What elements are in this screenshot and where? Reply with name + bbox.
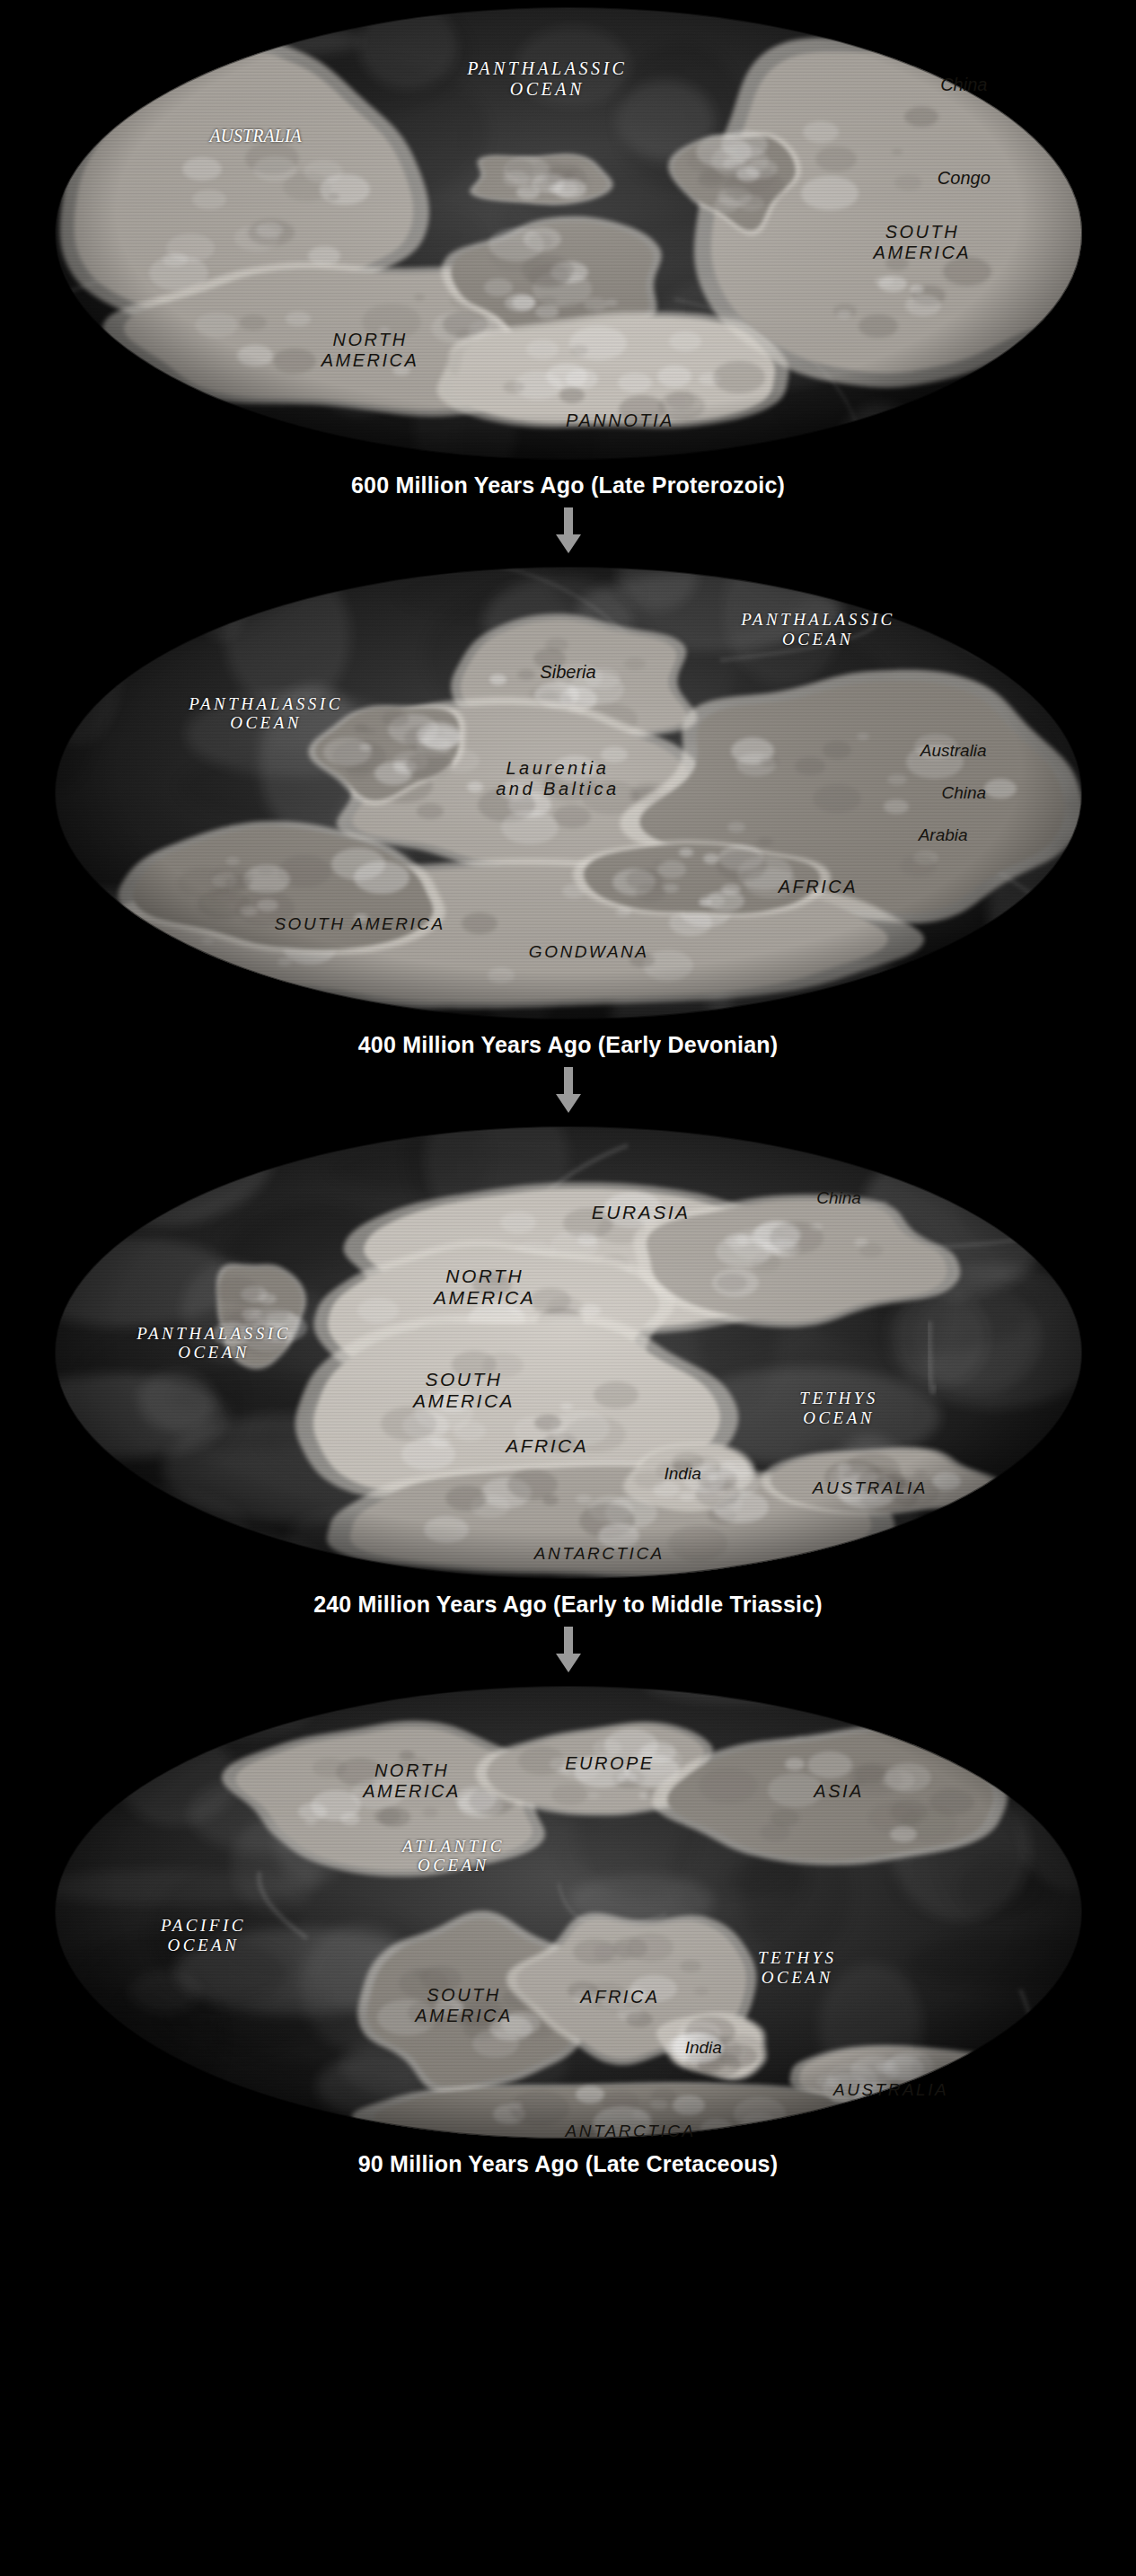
panel-600ma: PANTHALASSIC OCEANAUSTRALIAChinaCongoSOU… [0,0,1136,560]
continental-drift-figure: PANTHALASSIC OCEANAUSTRALIAChinaCongoSOU… [0,0,1136,2576]
paleogeographic-globe [48,1679,1089,2146]
paleogeographic-globe [48,0,1089,467]
globe-panel-90ma: NORTH AMERICAEUROPEASIAATLANTIC OCEANPAC… [48,1679,1089,2146]
caption-panel-240ma: 240 Million Years Ago (Early to Middle T… [0,1592,1136,1618]
paleogeographic-globe [48,1119,1089,1586]
panels-container: PANTHALASSIC OCEANAUSTRALIAChinaCongoSOU… [0,0,1136,2177]
panel-400ma: PANTHALASSIC OCEANPANTHALASSIC OCEANSibe… [0,560,1136,1119]
paleogeographic-globe [48,560,1089,1027]
globe-panel-240ma: EURASIAChinaNORTH AMERICAPANTHALASSIC OC… [48,1119,1089,1586]
panel-90ma: NORTH AMERICAEUROPEASIAATLANTIC OCEANPAC… [0,1679,1136,2177]
down-arrow-icon [553,507,584,554]
flow-arrow [0,1067,1136,1119]
panel-240ma: EURASIAChinaNORTH AMERICAPANTHALASSIC OC… [0,1119,1136,1679]
flow-arrow [0,1627,1136,1679]
caption-panel-600ma: 600 Million Years Ago (Late Proterozoic) [0,472,1136,498]
down-arrow-icon [553,1067,584,1114]
down-arrow-icon [553,1627,584,1673]
caption-panel-400ma: 400 Million Years Ago (Early Devonian) [0,1032,1136,1058]
globe-panel-400ma: PANTHALASSIC OCEANPANTHALASSIC OCEANSibe… [48,560,1089,1027]
caption-panel-90ma: 90 Million Years Ago (Late Cretaceous) [0,2151,1136,2177]
flow-arrow [0,507,1136,560]
globe-panel-600ma: PANTHALASSIC OCEANAUSTRALIAChinaCongoSOU… [48,0,1089,467]
